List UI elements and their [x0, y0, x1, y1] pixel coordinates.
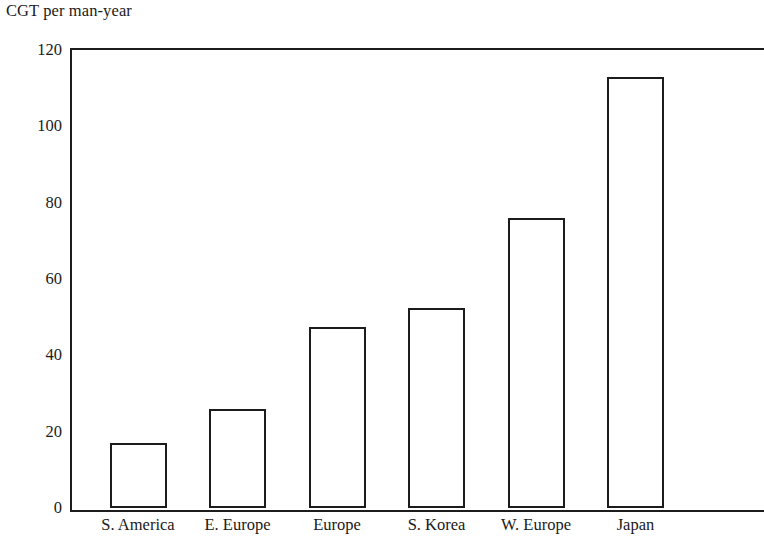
bar: [408, 308, 465, 508]
bar: [508, 218, 565, 508]
y-axis: 020406080100120: [0, 0, 62, 547]
y-axis-tick-label: 100: [4, 118, 62, 135]
y-axis-tick-label: 80: [4, 194, 62, 211]
y-axis-tick-label: 40: [4, 347, 62, 364]
x-axis-category-label: W. Europe: [486, 516, 586, 534]
y-axis-tick-label: 0: [4, 500, 62, 517]
bar: [607, 77, 664, 508]
bars-container: [72, 50, 762, 508]
bar: [209, 409, 266, 508]
x-axis-category-label: S. Korea: [387, 516, 487, 534]
y-axis-tick-label: 20: [4, 423, 62, 440]
x-axis-category-label: S. America: [88, 516, 188, 534]
x-axis-category-label: Europe: [287, 516, 387, 534]
y-axis-tick-label: 120: [4, 42, 62, 59]
x-axis-category-label: Japan: [586, 516, 686, 534]
x-axis-labels: S. AmericaE. EuropeEuropeS. KoreaW. Euro…: [72, 516, 762, 546]
bar: [309, 327, 366, 508]
bar: [110, 443, 167, 508]
x-axis-category-label: E. Europe: [188, 516, 288, 534]
y-axis-tick-label: 60: [4, 271, 62, 288]
